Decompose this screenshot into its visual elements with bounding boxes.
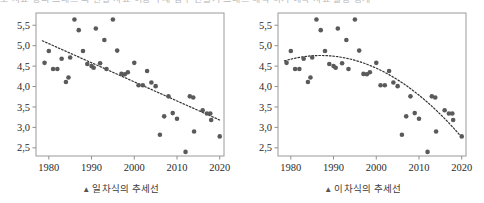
- data-point: [104, 67, 109, 72]
- data-point: [404, 114, 409, 119]
- data-point: [51, 67, 56, 72]
- data-point: [346, 67, 351, 72]
- x-tick-label: 1980: [38, 162, 59, 173]
- plot-frame: [278, 13, 466, 156]
- figure-quadratic-trendline: 2,53,03,54,04,55,05,51980199020002010202…: [242, 7, 484, 203]
- y-tick-label: 5,5: [17, 20, 30, 31]
- data-point: [42, 61, 47, 66]
- data-point: [442, 108, 447, 113]
- data-point: [450, 111, 455, 116]
- scatter-plot-linear: 2,53,03,54,04,55,05,51980199020002010202…: [0, 7, 242, 179]
- data-point: [72, 17, 77, 22]
- data-point: [149, 80, 154, 85]
- data-point: [85, 62, 90, 67]
- plot-area-quadratic: 2,53,03,54,04,55,05,51980199020002010202…: [242, 7, 484, 179]
- caption-quadratic-text: 이차식의 추세선: [334, 183, 401, 194]
- figure-linear-trendline: 2,53,03,54,04,55,05,51980199020002010202…: [0, 7, 242, 203]
- x-tick-label: 2000: [124, 162, 145, 173]
- data-point: [412, 111, 417, 116]
- data-point: [425, 150, 430, 155]
- data-point: [94, 26, 99, 31]
- triangle-marker-icon: ▲: [324, 185, 332, 194]
- data-point: [153, 84, 158, 89]
- y-tick-label: 5,5: [259, 20, 272, 31]
- cut-text-content: 도 자료 정리 그래프 의 관찰 자료 이용 추세 함수 만들기 그래프 해석 …: [0, 0, 371, 4]
- x-tick-label: 1980: [280, 162, 301, 173]
- data-point: [301, 56, 306, 61]
- data-point: [451, 118, 456, 123]
- data-point: [217, 134, 222, 139]
- data-point: [383, 83, 388, 88]
- data-point: [192, 129, 197, 134]
- data-point: [111, 17, 116, 22]
- data-point: [47, 49, 52, 54]
- y-tick-label: 3,0: [17, 122, 30, 133]
- y-tick-label: 4,0: [259, 81, 272, 92]
- data-point: [81, 49, 86, 54]
- data-point: [327, 62, 332, 67]
- data-point: [136, 83, 141, 88]
- data-point: [191, 95, 196, 100]
- data-point: [318, 28, 323, 33]
- y-tick-label: 2,5: [17, 142, 30, 153]
- data-point: [66, 75, 71, 80]
- data-point: [353, 17, 358, 22]
- data-point: [340, 61, 345, 66]
- data-point: [91, 65, 96, 70]
- data-point: [209, 118, 214, 123]
- y-tick-label: 5,0: [17, 40, 30, 51]
- data-point: [115, 48, 120, 53]
- data-point: [459, 134, 464, 139]
- data-point: [183, 150, 188, 155]
- data-point: [310, 55, 315, 60]
- data-point: [98, 61, 103, 66]
- data-point: [306, 80, 311, 85]
- data-point: [323, 49, 328, 54]
- data-point: [357, 48, 362, 53]
- data-point: [378, 83, 383, 88]
- figure-row: 2,53,03,54,04,55,05,51980199020002010202…: [0, 7, 484, 203]
- data-point: [59, 56, 64, 61]
- data-point: [344, 38, 349, 43]
- x-tick-label: 1990: [323, 162, 344, 173]
- data-point: [162, 114, 167, 119]
- y-tick-label: 4,5: [259, 61, 272, 72]
- plot-area-linear: 2,53,03,54,04,55,05,51980199020002010202…: [0, 7, 242, 179]
- data-point: [55, 67, 60, 72]
- data-point: [200, 108, 205, 113]
- data-point: [408, 94, 413, 99]
- data-point: [293, 67, 298, 72]
- caption-linear-text: 일차식의 추세선: [92, 183, 159, 194]
- trendline-linear: [42, 41, 219, 120]
- data-point: [166, 94, 171, 99]
- data-point: [314, 17, 319, 22]
- data-point: [102, 38, 107, 43]
- data-point: [391, 80, 396, 85]
- scatter-plot-quadratic: 2,53,03,54,04,55,05,51980199020002010202…: [242, 7, 484, 179]
- data-point: [333, 65, 338, 70]
- data-point: [417, 117, 422, 122]
- data-point: [284, 61, 289, 66]
- x-tick-label: 2010: [167, 162, 188, 173]
- y-tick-label: 3,5: [259, 102, 272, 113]
- data-point: [64, 80, 69, 85]
- y-tick-label: 4,0: [17, 81, 30, 92]
- data-point: [368, 70, 373, 75]
- caption-linear: ▲일차식의 추세선: [0, 181, 242, 195]
- data-point: [374, 61, 379, 66]
- data-point: [175, 117, 180, 122]
- data-point: [433, 95, 438, 100]
- data-point: [289, 49, 294, 54]
- page-top-cut-text: 도 자료 정리 그래프 의 관찰 자료 이용 추세 함수 만들기 그래프 해석 …: [0, 0, 484, 7]
- x-tick-label: 2020: [451, 162, 472, 173]
- data-point: [400, 132, 405, 137]
- y-tick-label: 3,0: [259, 122, 272, 133]
- x-tick-label: 2000: [366, 162, 387, 173]
- data-point: [308, 75, 313, 80]
- data-point: [434, 129, 439, 134]
- data-point: [76, 28, 81, 33]
- data-point: [170, 111, 175, 116]
- data-point: [395, 84, 400, 89]
- triangle-marker-icon: ▲: [82, 185, 90, 194]
- data-point: [297, 67, 302, 72]
